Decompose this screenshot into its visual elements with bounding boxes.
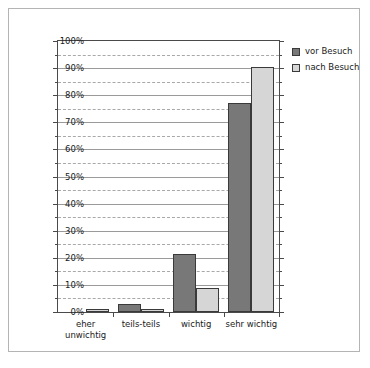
y-axis-tick-label: 10% <box>48 281 84 290</box>
plot-area <box>57 40 280 313</box>
legend-swatch-icon <box>292 48 300 56</box>
legend-item: vor Besuch <box>292 45 359 58</box>
y-tick-minor <box>279 271 282 272</box>
bar <box>173 254 196 312</box>
y-tick-major <box>279 41 284 42</box>
y-tick-major <box>279 95 284 96</box>
bar <box>141 309 164 312</box>
y-tick-minor <box>279 298 282 299</box>
legend-item-label: vor Besuch <box>305 47 352 56</box>
bar <box>251 67 274 312</box>
y-axis-tick-label: 30% <box>48 227 84 236</box>
y-tick-minor <box>55 217 58 218</box>
y-axis-tick-label: 90% <box>48 64 84 73</box>
gridline-major <box>58 95 279 96</box>
y-tick-major <box>279 149 284 150</box>
y-tick-minor <box>55 136 58 137</box>
y-tick-major <box>279 231 284 232</box>
bar <box>196 288 219 312</box>
y-tick-major <box>279 258 284 259</box>
y-tick-minor <box>279 109 282 110</box>
y-tick-minor <box>279 136 282 137</box>
legend-item: nach Besuch <box>292 61 359 74</box>
y-tick-major <box>279 122 284 123</box>
y-tick-minor <box>55 82 58 83</box>
y-tick-minor <box>55 244 58 245</box>
y-axis-tick-label: 0% <box>48 308 84 317</box>
y-tick-minor <box>55 163 58 164</box>
y-tick-major <box>279 68 284 69</box>
y-tick-minor <box>55 298 58 299</box>
y-axis-tick-label: 40% <box>48 200 84 209</box>
y-tick-minor <box>279 55 282 56</box>
y-tick-minor <box>55 271 58 272</box>
y-tick-major <box>279 285 284 286</box>
y-tick-minor <box>55 109 58 110</box>
y-axis-tick-label: 80% <box>48 91 84 100</box>
y-tick-major <box>279 177 284 178</box>
gridline-major <box>58 68 279 69</box>
x-axis-tick <box>224 312 225 317</box>
gridline-minor <box>58 82 279 83</box>
y-tick-minor <box>279 190 282 191</box>
y-axis-tick-label: 20% <box>48 254 84 263</box>
y-axis-tick-label: 100% <box>48 37 84 46</box>
y-tick-minor <box>279 82 282 83</box>
legend-swatch-icon <box>292 64 300 72</box>
chart-legend: vor Besuchnach Besuch <box>292 45 359 77</box>
y-axis-tick-label: 60% <box>48 145 84 154</box>
gridline-minor <box>58 55 279 56</box>
y-tick-minor <box>55 55 58 56</box>
x-axis-tick <box>113 312 114 317</box>
y-tick-major <box>279 204 284 205</box>
legend-item-label: nach Besuch <box>305 63 359 72</box>
chart-figure-frame: 0%10%20%30%40%50%60%70%80%90%100% eher u… <box>8 8 360 352</box>
x-axis-tick <box>169 312 170 317</box>
y-tick-major <box>279 312 284 313</box>
bar <box>118 304 141 312</box>
bar <box>86 309 109 312</box>
y-tick-minor <box>279 163 282 164</box>
x-axis-category-label: sehr wichtig <box>211 319 291 330</box>
y-tick-minor <box>279 217 282 218</box>
bar <box>228 103 251 312</box>
y-tick-minor <box>279 244 282 245</box>
y-axis-tick-label: 70% <box>48 118 84 127</box>
y-tick-minor <box>55 190 58 191</box>
y-axis-tick-label: 50% <box>48 173 84 182</box>
